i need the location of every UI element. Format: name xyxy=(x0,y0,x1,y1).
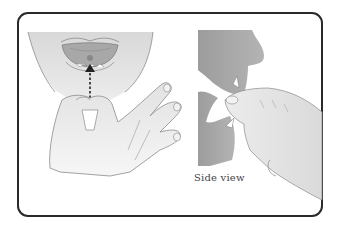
tablet-icon xyxy=(87,55,93,61)
front-view-face xyxy=(28,32,153,100)
sublingual-illustration xyxy=(0,0,341,226)
side-view-caption: Side view xyxy=(194,172,245,183)
